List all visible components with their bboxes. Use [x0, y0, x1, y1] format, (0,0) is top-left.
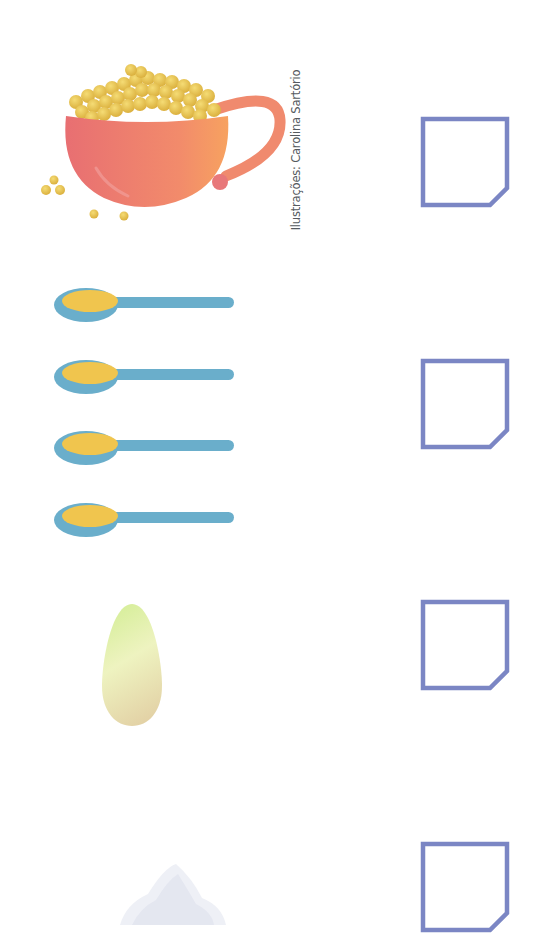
spoon-icon [52, 352, 236, 402]
answer-box-3[interactable] [420, 599, 510, 691]
answer-box-4[interactable] [420, 841, 510, 933]
salt-pile-icon [118, 858, 228, 925]
cup-of-grains-icon [36, 58, 286, 228]
salt-pile-illustration [118, 858, 228, 925]
answer-box-2[interactable] [420, 358, 510, 450]
spoon-icon [52, 495, 236, 545]
spoon-icon [52, 423, 236, 473]
answer-box-1[interactable] [420, 116, 510, 208]
illustration-credit: Ilustrações: Carolina Sartório [289, 70, 303, 231]
spoon-icon [52, 280, 236, 330]
egg-icon [100, 600, 164, 730]
cup-of-grains-illustration [36, 58, 286, 228]
egg-illustration [100, 600, 164, 730]
